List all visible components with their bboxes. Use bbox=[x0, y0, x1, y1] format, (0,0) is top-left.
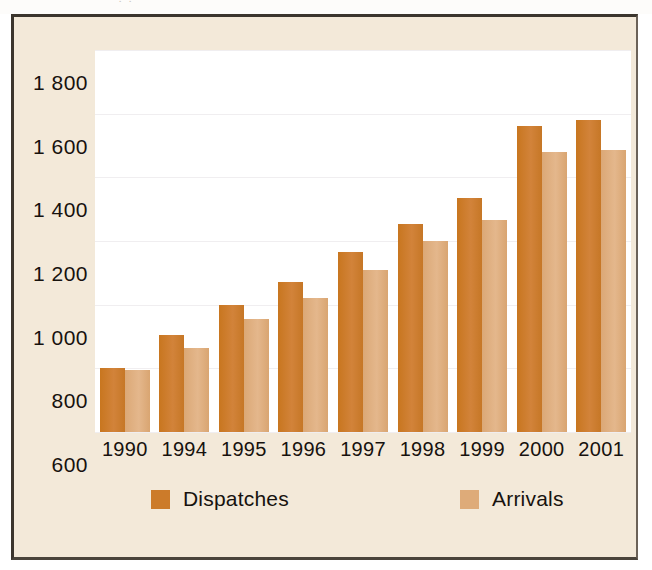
plot-area bbox=[95, 50, 631, 432]
x-tick-label-1997: 1997 bbox=[340, 438, 386, 461]
bar-arrivals-1996 bbox=[303, 298, 328, 432]
bar-dispatches-1994 bbox=[159, 335, 184, 432]
bar-dispatches-2001 bbox=[576, 120, 601, 432]
y-tick-label: 1 200 bbox=[33, 262, 88, 286]
bar-arrivals-1997 bbox=[363, 270, 388, 432]
legend-item-arrivals[interactable]: Arrivals bbox=[460, 487, 564, 511]
gridline bbox=[95, 50, 631, 51]
x-tick-label-1996: 1996 bbox=[281, 438, 327, 461]
y-tick-label: 1 800 bbox=[33, 71, 88, 95]
scan-top-edge-sliver: · · bbox=[0, 0, 652, 14]
x-tick-label-1994: 1994 bbox=[161, 438, 207, 461]
legend-label-dispatches: Dispatches bbox=[183, 487, 289, 511]
x-tick-label-1990: 1990 bbox=[102, 438, 148, 461]
gridline bbox=[95, 432, 631, 433]
bar-arrivals-2000 bbox=[542, 152, 567, 432]
legend-swatch-icon-dispatches bbox=[151, 490, 170, 509]
bar-arrivals-1994 bbox=[184, 348, 209, 432]
y-tick-label: 1 000 bbox=[33, 326, 88, 350]
y-tick-label: 1 400 bbox=[33, 198, 88, 222]
bar-dispatches-1996 bbox=[278, 282, 303, 432]
bar-arrivals-1998 bbox=[423, 241, 448, 432]
bar-arrivals-2001 bbox=[601, 150, 626, 432]
x-tick-label-1995: 1995 bbox=[221, 438, 267, 461]
bar-arrivals-1990 bbox=[125, 370, 150, 432]
bar-dispatches-1995 bbox=[219, 305, 244, 432]
y-axis: 6008001 0001 2001 4001 6001 800 bbox=[14, 50, 88, 432]
bar-arrivals-1995 bbox=[244, 319, 269, 432]
bar-dispatches-1998 bbox=[398, 224, 423, 433]
y-tick-label: 800 bbox=[51, 389, 88, 413]
x-axis: 199019941995199619971998199920002001 bbox=[95, 438, 631, 468]
legend-item-dispatches[interactable]: Dispatches bbox=[151, 487, 289, 511]
legend-swatch-icon-arrivals bbox=[460, 490, 479, 509]
x-tick-label-1998: 1998 bbox=[400, 438, 446, 461]
chart-legend: Dispatches Arrivals bbox=[14, 487, 641, 527]
bar-dispatches-1997 bbox=[338, 252, 363, 432]
gridline bbox=[95, 114, 631, 115]
y-tick-label: 1 600 bbox=[33, 135, 88, 159]
x-tick-label-2001: 2001 bbox=[578, 438, 624, 461]
bar-dispatches-1999 bbox=[457, 198, 482, 432]
x-tick-label-1999: 1999 bbox=[459, 438, 505, 461]
bar-dispatches-1990 bbox=[100, 368, 125, 432]
cropped-title-remnant: · · bbox=[118, 0, 133, 2]
chart-figure-panel: 6008001 0001 2001 4001 6001 800 19901994… bbox=[11, 14, 638, 560]
bar-dispatches-2000 bbox=[517, 126, 542, 432]
bar-arrivals-1999 bbox=[482, 220, 507, 432]
legend-label-arrivals: Arrivals bbox=[492, 487, 564, 511]
y-tick-label: 600 bbox=[51, 453, 88, 477]
x-tick-label-2000: 2000 bbox=[519, 438, 565, 461]
